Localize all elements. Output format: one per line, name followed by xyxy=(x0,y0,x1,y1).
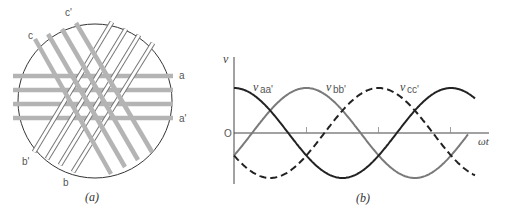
vaa-base: v xyxy=(253,80,259,94)
vcc-sub: cc' xyxy=(407,84,419,95)
x-axis-label: ωt xyxy=(478,135,490,147)
vaa-sub: aa' xyxy=(260,84,273,95)
vcc-base: v xyxy=(400,80,406,94)
y-axis-label: v xyxy=(223,52,229,66)
label-c: c xyxy=(28,30,33,41)
label-c-prime: c' xyxy=(65,7,72,18)
waveform-plot: v O ωt v aa' v bb' v cc' (b) xyxy=(223,52,490,205)
legend-vbb: v bb' xyxy=(326,80,346,95)
caption-b: (b) xyxy=(356,191,370,205)
label-b-prime: b' xyxy=(22,156,30,167)
vbb-base: v xyxy=(326,80,332,94)
figure-root: c' c a a' b' b (a) v O ωt v aa' v bb' xyxy=(0,0,505,205)
origin-label: O xyxy=(224,128,232,139)
label-a-prime: a' xyxy=(179,113,187,124)
label-b: b xyxy=(63,177,69,188)
legend-vcc: v cc' xyxy=(400,80,419,95)
legend-vaa: v aa' xyxy=(253,80,273,95)
caption-a: (a) xyxy=(85,190,99,204)
vbb-sub: bb' xyxy=(333,84,346,95)
label-a: a xyxy=(179,70,185,81)
figure-canvas: c' c a a' b' b (a) v O ωt v aa' v bb' xyxy=(0,0,505,205)
stator-diagram: c' c a a' b' b (a) xyxy=(13,7,187,204)
